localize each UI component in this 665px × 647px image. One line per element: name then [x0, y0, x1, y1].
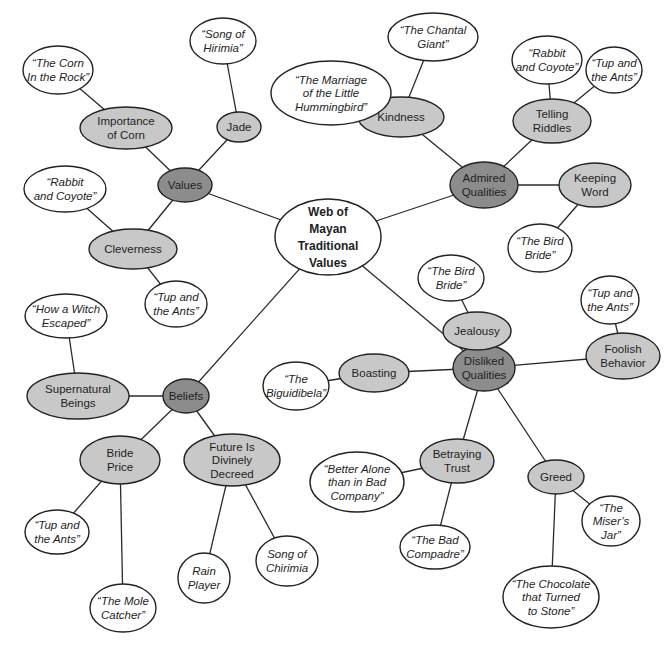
node-label-line: Values	[168, 179, 203, 191]
node-label-line: Hummingbird”	[295, 101, 368, 113]
node-label-line: “The Bad	[411, 534, 459, 546]
node-telling-riddles: TellingRiddles	[513, 99, 591, 143]
node-boasting: Boasting	[339, 354, 409, 392]
node-cleverness: Cleverness	[89, 229, 177, 269]
node-jealousy: Jealousy	[443, 312, 511, 350]
node-label-line: Price	[107, 461, 133, 473]
node-label-line: Traditional	[298, 239, 359, 253]
node-label-line: Telling	[536, 108, 569, 120]
node-bird-bride-jealousy: “The BirdBride”	[418, 255, 484, 301]
node-label-line: Web of	[308, 205, 349, 219]
node-label-line: Keeping	[574, 172, 616, 184]
node-foolish-behavior: FoolishBehavior	[586, 333, 660, 379]
node-label-line: Importance	[97, 115, 155, 127]
node-label-line: Future Is	[209, 441, 255, 453]
node-label-line: Chirimia	[266, 562, 308, 574]
node-label-line: Biguidibela”	[266, 387, 327, 399]
node-better-alone: “Better Alonethan in BadCompany”	[310, 452, 404, 512]
node-bad-compadre: “The BadCompadre”	[400, 525, 470, 569]
node-label-line: of Corn	[107, 129, 145, 141]
node-admired: AdmiredQualities	[450, 162, 518, 208]
node-label-line: “Tup and	[587, 287, 633, 299]
node-label-line: of the Little	[303, 87, 359, 99]
node-witch-escaped: “How a WitchEscaped”	[25, 294, 107, 338]
node-label-line: “Tup and	[153, 291, 199, 303]
node-label-line: Giant”	[417, 38, 449, 50]
node-values: Values	[158, 168, 212, 202]
node-greed: Greed	[528, 460, 584, 494]
node-bird-bride-word: “The BirdBride”	[508, 224, 572, 272]
node-label-line: and Coyote”	[516, 61, 580, 73]
node-label-line: Miser’s	[593, 515, 630, 527]
node-mole-catcher: “The MoleCatcher”	[90, 584, 156, 632]
concept-web-diagram: Web ofMayanTraditionalValuesValuesJade“S…	[0, 0, 665, 647]
node-label-line: to Stone”	[528, 605, 576, 617]
node-biguidibela: “TheBiguidibela”	[263, 362, 329, 410]
node-rabbit-coyote-left: “Rabbitand Coyote”	[24, 166, 106, 212]
node-label-line: “Song of	[201, 28, 246, 40]
node-disliked: DislikedQualities	[453, 345, 515, 391]
node-label-line: and Coyote”	[34, 190, 98, 202]
node-misers-jar: “TheMiser’sJar”	[582, 496, 640, 546]
node-label-line: “Rabbit	[528, 47, 566, 59]
node-label-line: Divinely	[212, 454, 253, 466]
node-label-line: Cleverness	[104, 243, 162, 255]
node-song-hirimia: “Song ofHirimia”	[190, 18, 256, 64]
node-center: Web ofMayanTraditionalValues	[275, 199, 381, 275]
node-label-line: the Ants”	[591, 71, 638, 83]
node-marriage-hummingbird: “The Marriageof the LittleHummingbird”	[271, 61, 391, 125]
node-label-line: Hirimia”	[203, 42, 244, 54]
node-label-line: Qualities	[462, 186, 507, 198]
node-label-line: Foolish	[604, 343, 641, 355]
node-label-line: Bride”	[525, 249, 557, 261]
node-label-line: “The Bird	[516, 235, 564, 247]
node-chocolate-stone: “The Chocolatethat Turnedto Stone”	[503, 566, 599, 628]
node-label-line: Greed	[540, 471, 572, 483]
node-label-line: Trust	[444, 462, 471, 474]
node-song-chirimia: Song ofChirimia	[256, 536, 318, 586]
node-label-line: “The Marriage	[295, 74, 367, 86]
concept-nodes: Web ofMayanTraditionalValuesValuesJade“S…	[23, 13, 660, 632]
node-label-line: the Ants”	[153, 305, 200, 317]
node-label-line: Disliked	[464, 355, 504, 367]
node-label-line: Beings	[60, 397, 95, 409]
node-label-line: Player	[188, 579, 222, 591]
node-keeping-word: KeepingWord	[559, 163, 631, 207]
node-label-line: “The Chocolate	[512, 578, 591, 590]
node-label-line: Supernatural	[45, 383, 111, 395]
node-future-decreed: Future IsDivinelyDecreed	[184, 434, 280, 486]
node-label-line: the Ants”	[587, 301, 634, 313]
node-label-line: than in Bad	[328, 476, 387, 488]
node-tup-ants-riddles: “Tup andthe Ants”	[586, 47, 642, 93]
node-chantal-giant: “The ChantalGiant”	[388, 13, 478, 61]
node-label-line: Values	[309, 256, 347, 270]
node-label-line: Decreed	[210, 468, 253, 480]
node-label-line: “Tup and	[34, 519, 80, 531]
node-label-line: Kindness	[377, 111, 425, 123]
node-label-line: In the Rock”	[27, 71, 90, 83]
node-label-line: “Better Alone	[324, 463, 391, 475]
node-label-line: Escaped”	[42, 317, 92, 329]
node-tup-ants-cleverness: “Tup andthe Ants”	[145, 281, 207, 327]
node-label-line: “The Bird	[427, 265, 475, 277]
node-supernatural-beings: SupernaturalBeings	[27, 373, 129, 419]
node-label-line: Mayan	[309, 222, 346, 236]
node-betraying-trust: BetrayingTrust	[420, 439, 494, 483]
node-label-line: Admired	[463, 172, 506, 184]
node-label-line: “Rabbit	[46, 176, 84, 188]
node-importance-corn: Importanceof Corn	[80, 107, 172, 149]
node-label-line: Betraying	[433, 448, 482, 460]
node-label-line: Bride	[107, 447, 134, 459]
node-label-line: Jar”	[600, 529, 622, 541]
node-label-line: “The	[284, 373, 308, 385]
node-rain-player: RainPlayer	[178, 553, 230, 603]
node-label-line: Song of	[267, 548, 308, 560]
node-label-line: that Turned	[522, 591, 581, 603]
node-label-line: “How a Witch	[32, 303, 100, 315]
node-beliefs: Beliefs	[163, 379, 209, 413]
node-label-line: the Ants”	[34, 533, 81, 545]
node-label-line: “The Corn	[32, 57, 84, 69]
node-label-line: Catcher”	[101, 609, 146, 621]
node-tup-ants-bride: “Tup andthe Ants”	[25, 510, 89, 554]
node-corn-rock: “The CornIn the Rock”	[23, 46, 93, 94]
